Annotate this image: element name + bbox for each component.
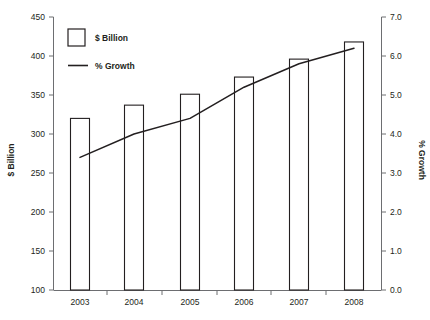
x-tick-label-0: 2003 [71, 297, 90, 307]
bar-2005 [181, 94, 200, 290]
y-tick-label-right-5: 2.0 [390, 207, 402, 217]
y-tick-label-right-0: 7.0 [390, 12, 402, 22]
y-tick-label-right-3: 4.0 [390, 129, 402, 139]
bar-2007 [290, 59, 309, 290]
x-axis: 2003 2004 2005 2006 2007 2008 [54, 291, 382, 308]
y-tick-label-right-1: 6.0 [390, 51, 402, 61]
y-tick-label-right-4: 3.0 [390, 168, 402, 178]
x-tick-label-5: 2008 [345, 297, 364, 307]
y-tick-label-left-6: 150 [31, 246, 45, 256]
x-tick-label-3: 2006 [235, 297, 254, 307]
y-tick-label-left-4: 250 [31, 168, 45, 178]
y-tick-label-left-2: 350 [31, 90, 45, 100]
bar-2003 [71, 118, 90, 290]
y-tick-label-left-1: 400 [31, 51, 45, 61]
bar-2008 [345, 42, 364, 290]
x-tick-label-2: 2005 [181, 297, 200, 307]
y-tick-label-left-0: 450 [31, 12, 45, 22]
legend-swatch-bar [68, 29, 85, 46]
y-tick-label-right-7: 0.0 [390, 285, 402, 295]
bar-series [71, 42, 364, 290]
y-tick-label-left-7: 100 [31, 285, 45, 295]
legend-label-line: % Growth [95, 61, 135, 71]
y-axis-right: 7.0 6.0 5.0 4.0 3.0 2.0 1.0 0.0 % Growth [382, 12, 428, 295]
bar-2006 [235, 77, 254, 290]
x-tick-label-1: 2004 [125, 297, 144, 307]
y-axis-left: 450 400 350 300 250 200 150 100 $ Billio… [6, 12, 54, 295]
y-tick-label-left-5: 200 [31, 207, 45, 217]
legend-label-bar: $ Billion [95, 33, 128, 43]
y-tick-label-left-3: 300 [31, 129, 45, 139]
x-tick-label-4: 2007 [290, 297, 309, 307]
y-axis-left-title: $ Billion [6, 143, 16, 176]
y-axis-right-title: % Growth [417, 140, 427, 180]
y-tick-label-right-2: 5.0 [390, 90, 402, 100]
chart-container: 450 400 350 300 250 200 150 100 $ Billio… [0, 0, 430, 320]
combo-chart: 450 400 350 300 250 200 150 100 $ Billio… [0, 0, 430, 320]
chart-legend: $ Billion % Growth [68, 29, 135, 71]
y-tick-label-right-6: 1.0 [390, 246, 402, 256]
